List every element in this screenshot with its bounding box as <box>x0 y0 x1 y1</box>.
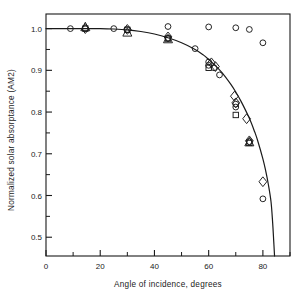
y-tick-label: 1.0 <box>31 25 43 34</box>
plot-background <box>0 0 302 294</box>
x-tick-label: 80 <box>258 262 267 271</box>
y-tick-label: 0.5 <box>31 233 43 242</box>
y-tick-label: 0.6 <box>31 192 43 201</box>
x-tick-label: 20 <box>96 262 105 271</box>
y-axis-label: Normalized solar absorptance (AM2) <box>7 69 16 211</box>
x-tick-label: 60 <box>204 262 213 271</box>
y-tick-label: 0.8 <box>31 108 43 117</box>
scatter-plot: 020406080 0.50.60.70.80.91.0 Angle of in… <box>0 0 302 294</box>
x-tick-label: 0 <box>44 262 49 271</box>
x-tick-label: 40 <box>150 262 159 271</box>
figure-container: 020406080 0.50.60.70.80.91.0 Angle of in… <box>0 0 302 294</box>
y-tick-label: 0.9 <box>31 66 43 75</box>
y-tick-label: 0.7 <box>31 150 43 159</box>
x-axis-label: Angle of incidence, degrees <box>114 280 222 289</box>
